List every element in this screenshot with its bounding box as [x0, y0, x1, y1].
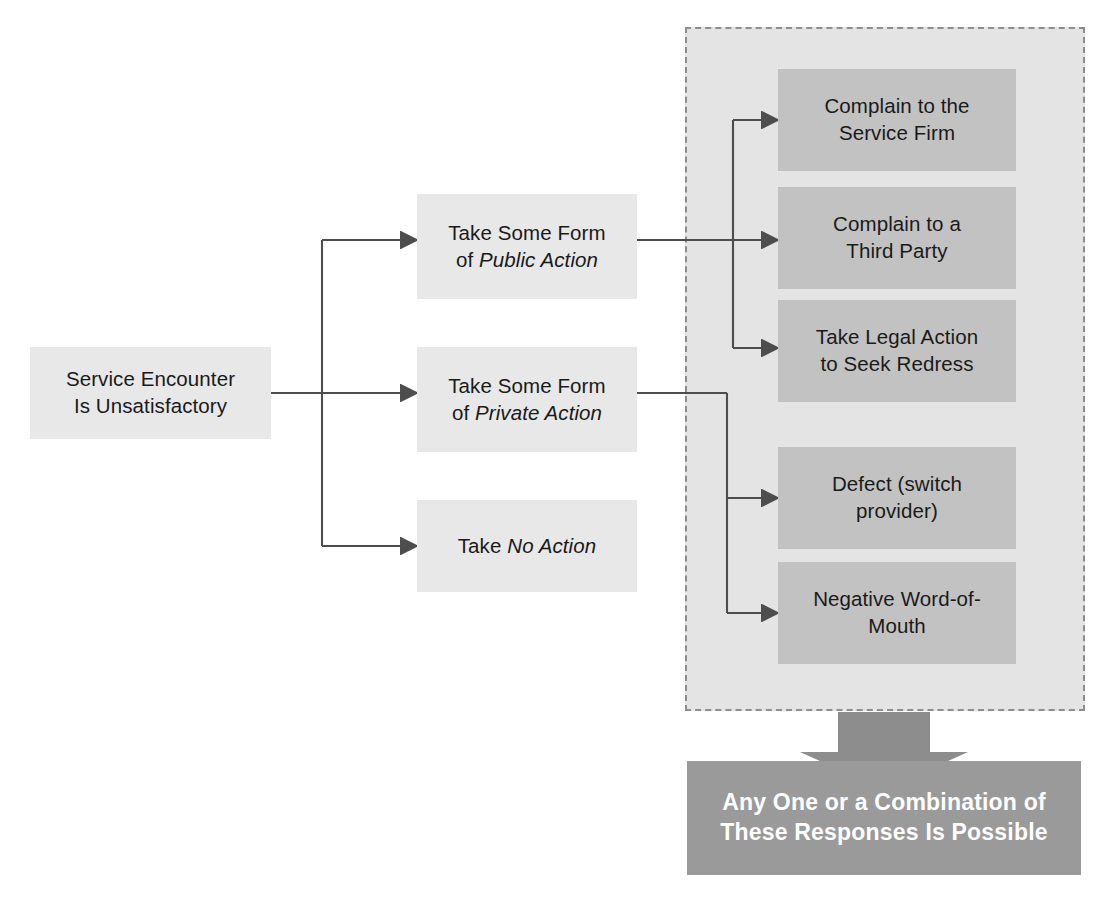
node-defect[interactable]: Defect (switch provider) [778, 447, 1016, 549]
node-public-action-line1: Take Some Form [448, 221, 605, 244]
node-public-action-emphasis: Public Action [479, 248, 598, 271]
node-complain-third-party-label: Complain to a Third Party [833, 211, 961, 264]
diagram-canvas: Service Encounter Is Unsatisfactory Take… [0, 0, 1113, 908]
node-public-action-line2-prefix: of [456, 248, 479, 271]
node-legal-action[interactable]: Take Legal Action to Seek Redress [778, 300, 1016, 402]
node-service-encounter-label: Service Encounter Is Unsatisfactory [66, 366, 235, 419]
node-public-action[interactable]: Take Some Form of Public Action [417, 194, 637, 299]
node-no-action-prefix: Take [458, 534, 508, 557]
node-no-action-emphasis: No Action [507, 534, 596, 557]
node-legal-action-label: Take Legal Action to Seek Redress [816, 324, 978, 377]
node-private-action-emphasis: Private Action [475, 401, 602, 424]
node-negative-word-of-mouth-label: Negative Word-of- Mouth [813, 586, 981, 639]
node-negative-word-of-mouth[interactable]: Negative Word-of- Mouth [778, 562, 1016, 664]
node-private-action-line1: Take Some Form [448, 374, 605, 397]
node-defect-label: Defect (switch provider) [832, 471, 962, 524]
node-summary-banner-label: Any One or a Combination of These Respon… [720, 788, 1048, 848]
node-private-action-label: Take Some Form of Private Action [448, 373, 605, 426]
node-complain-service-firm-label: Complain to the Service Firm [824, 93, 969, 146]
node-complain-service-firm[interactable]: Complain to the Service Firm [778, 69, 1016, 171]
node-private-action-line2-prefix: of [452, 401, 475, 424]
node-no-action-label: Take No Action [458, 533, 597, 560]
node-complain-third-party[interactable]: Complain to a Third Party [778, 187, 1016, 289]
node-summary-banner[interactable]: Any One or a Combination of These Respon… [687, 761, 1081, 875]
node-private-action[interactable]: Take Some Form of Private Action [417, 347, 637, 452]
node-public-action-label: Take Some Form of Public Action [448, 220, 605, 273]
node-no-action[interactable]: Take No Action [417, 500, 637, 592]
node-service-encounter[interactable]: Service Encounter Is Unsatisfactory [30, 347, 271, 439]
